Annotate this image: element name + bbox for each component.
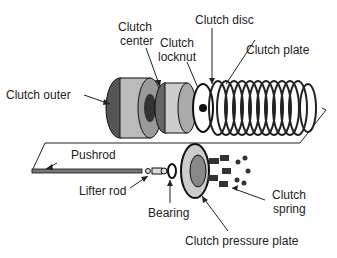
pushrod-part: [32, 169, 142, 173]
label-clutch-center-line2: center: [120, 35, 153, 48]
pressure-plate-part: [181, 144, 209, 198]
label-clutch-pressure-plate: Clutch pressure plate: [185, 235, 298, 248]
label-clutch-spring-line1: Clutch: [272, 189, 306, 202]
label-clutch-locknut-line2: locknut: [158, 51, 196, 64]
label-clutch-plate: Clutch plate: [246, 44, 309, 57]
label-clutch-outer: Clutch outer: [6, 89, 71, 102]
label-pushrod: Pushrod: [71, 149, 116, 162]
label-clutch-locknut-line1: Clutch: [160, 37, 194, 50]
label-clutch-center-line1: Clutch: [118, 21, 152, 34]
clutch-plates-part: [209, 81, 316, 135]
bearing-part: [168, 164, 176, 178]
label-clutch-disc: Clutch disc: [195, 14, 254, 27]
label-bearing: Bearing: [148, 207, 189, 220]
lifter-rod-part: [146, 168, 168, 174]
clutch-springs-part: [208, 155, 251, 187]
label-clutch-spring-line2: spring: [273, 203, 306, 216]
clutch-center-part: [155, 83, 196, 133]
clutch-outer-part: [106, 78, 162, 138]
clutch-diagram: Clutch outer Clutch center Clutch locknu…: [0, 0, 337, 258]
label-lifter-rod: Lifter rod: [79, 185, 126, 198]
